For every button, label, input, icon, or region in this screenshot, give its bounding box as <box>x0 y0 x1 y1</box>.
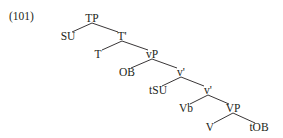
tree-node-ob: OB <box>119 66 135 78</box>
tree-node-vbar1: v' <box>177 66 185 78</box>
tree-branches <box>0 0 283 138</box>
tree-node-vb: Vb <box>179 102 193 114</box>
tree-node-tbar: T' <box>117 30 126 42</box>
tree-node-vbar2: v' <box>204 84 212 96</box>
tree-node-vp: VP <box>226 102 241 114</box>
tree-node-tp: TP <box>85 12 98 24</box>
tree-node-tob: tOB <box>249 121 268 133</box>
tree-node-vp: vP <box>146 48 158 60</box>
branch-tbar-t <box>102 41 122 50</box>
branch-vbar1-vbar2 <box>181 77 204 86</box>
branch-tp-tbar <box>92 23 118 32</box>
branch-vp-vbar1 <box>152 59 177 68</box>
tree-node-t: T <box>94 48 101 60</box>
branch-vp-v <box>214 113 233 123</box>
tree-node-v: V <box>206 121 214 133</box>
tree-node-su: SU <box>61 30 76 42</box>
tree-node-tsu: tSU <box>149 84 167 96</box>
branch-tbar-vp <box>122 41 148 50</box>
